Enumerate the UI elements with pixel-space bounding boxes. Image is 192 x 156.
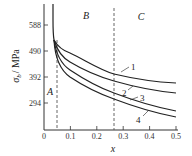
curve-label-1: 1 bbox=[131, 62, 136, 72]
curve-label-3: 3 bbox=[140, 93, 145, 103]
ytick-490: 490 bbox=[29, 47, 41, 56]
region-label-c: C bbox=[138, 11, 145, 22]
curve-2 bbox=[54, 40, 176, 93]
curve-3 bbox=[54, 40, 176, 111]
curve-label-2: 2 bbox=[122, 88, 127, 98]
initial-spike-line bbox=[53, 4, 54, 40]
y-axis-title: σb/ MPa bbox=[10, 49, 23, 83]
curve-1 bbox=[54, 40, 176, 83]
xtick-0-1: 0.1 bbox=[65, 132, 75, 141]
xtick-0-5: 0.5 bbox=[171, 132, 181, 141]
curve-4-leader bbox=[143, 111, 148, 116]
xtick-0-4: 0.4 bbox=[145, 132, 155, 141]
region-label-b: B bbox=[83, 10, 89, 21]
xtick-0: 0 bbox=[42, 132, 46, 141]
region-label-a: A bbox=[46, 86, 54, 97]
ytick-294: 294 bbox=[29, 99, 41, 108]
curve-4 bbox=[54, 40, 176, 117]
x-axis-title: x bbox=[110, 143, 116, 154]
xtick-0-3: 0.3 bbox=[118, 132, 128, 141]
curve-2-leader bbox=[128, 86, 133, 90]
stress-vs-x-chart: 588 490 392 294 0 0.1 0.2 0.3 0.4 0.5 x … bbox=[0, 0, 192, 156]
xtick-0-2: 0.2 bbox=[92, 132, 102, 141]
x-ticks: 0 0.1 0.2 0.3 0.4 0.5 bbox=[42, 126, 181, 141]
curve-1-leader bbox=[121, 67, 129, 72]
svg-text:σb/ MPa: σb/ MPa bbox=[10, 49, 23, 83]
ytick-588: 588 bbox=[29, 21, 41, 30]
y-ticks: 588 490 392 294 bbox=[29, 21, 48, 108]
curve-label-4: 4 bbox=[136, 115, 141, 125]
ytick-392: 392 bbox=[29, 73, 41, 82]
